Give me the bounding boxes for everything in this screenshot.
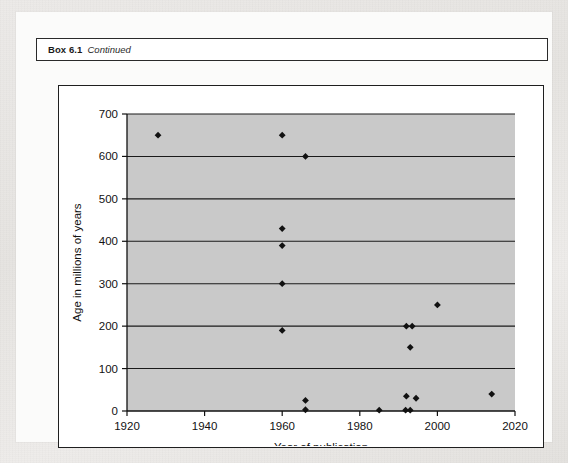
y-tick-label: 200 <box>99 320 118 332</box>
x-axis-title: Year of publication <box>274 441 368 446</box>
y-tick-label: 400 <box>99 235 118 247</box>
figure-frame: 0100200300400500600700 19201940196019802… <box>58 85 544 448</box>
box-header: Box 6.1 Continued <box>36 38 548 61</box>
y-tick-label: 600 <box>99 150 118 162</box>
y-tick-label: 100 <box>99 363 118 375</box>
plot-background <box>127 114 515 411</box>
x-tick-label: 2000 <box>425 420 451 432</box>
x-tick-label: 1940 <box>192 420 218 432</box>
y-tick-label: 300 <box>99 278 118 290</box>
page-sheet: Box 6.1 Continued 0100200300400500600700… <box>16 12 552 442</box>
chart-canvas: 0100200300400500600700 19201940196019802… <box>59 86 542 446</box>
y-axis-ticks: 0100200300400500600700 <box>99 108 127 417</box>
x-tick-label: 2020 <box>502 420 528 432</box>
y-tick-label: 0 <box>112 405 118 417</box>
box-continued-label: Continued <box>88 44 131 55</box>
scatter-chart: 0100200300400500600700 19201940196019802… <box>59 86 543 447</box>
box-number-label: Box 6.1 <box>48 44 83 55</box>
y-tick-label: 700 <box>99 108 118 120</box>
x-tick-label: 1980 <box>347 420 373 432</box>
y-axis-title: Age in millions of years <box>71 203 83 321</box>
x-tick-label: 1960 <box>269 420 295 432</box>
x-tick-label: 1920 <box>114 420 140 432</box>
y-tick-label: 500 <box>99 193 118 205</box>
x-axis-ticks: 192019401960198020002020 <box>114 411 528 432</box>
